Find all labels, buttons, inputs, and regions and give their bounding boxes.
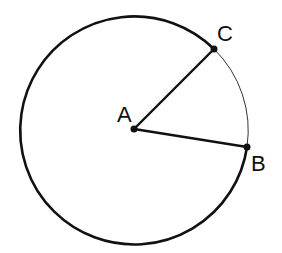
point-c xyxy=(211,46,218,53)
label-b: B xyxy=(251,151,266,176)
circle-diagram: A B C xyxy=(0,0,282,253)
label-a: A xyxy=(117,102,132,127)
point-b xyxy=(244,144,251,151)
label-c: C xyxy=(217,21,233,46)
minor-arc-cb xyxy=(214,49,248,147)
radius-ab xyxy=(134,129,247,147)
radius-ac xyxy=(134,49,214,129)
